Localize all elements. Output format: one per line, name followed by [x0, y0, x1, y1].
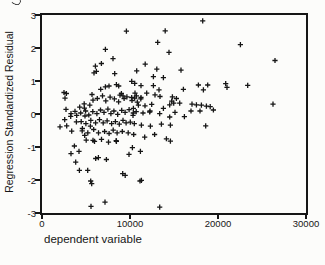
- plus-marker: [89, 92, 94, 97]
- plus-marker: [93, 156, 98, 161]
- plus-marker: [130, 145, 135, 150]
- plus-marker: [156, 87, 161, 92]
- y-tick-mark: [35, 14, 40, 16]
- plus-marker: [62, 117, 67, 122]
- y-tick-mark: [35, 179, 40, 181]
- plus-marker: [85, 168, 90, 173]
- y-tick-label: 3: [10, 10, 36, 21]
- plus-marker: [115, 112, 120, 117]
- plus-marker: [107, 131, 112, 136]
- plus-marker: [114, 138, 119, 143]
- plus-marker: [163, 28, 168, 33]
- plot-area: [40, 13, 308, 215]
- plus-marker: [103, 47, 108, 52]
- x-axis-title: dependent variable: [44, 233, 142, 245]
- plus-marker: [85, 130, 90, 135]
- plus-marker: [91, 127, 96, 132]
- plus-marker: [74, 119, 79, 124]
- x-tick-label: 30000: [293, 218, 319, 229]
- plus-marker: [103, 84, 108, 89]
- plus-marker: [159, 122, 164, 127]
- plus-marker: [105, 107, 110, 112]
- scatterplot-figure: Regression Standardized Residual 3210-1-…: [0, 0, 325, 265]
- x-tick-label: 0: [39, 218, 44, 229]
- plus-marker: [204, 104, 209, 109]
- plus-marker: [135, 100, 140, 105]
- plus-marker: [68, 151, 73, 156]
- plus-marker: [77, 105, 82, 110]
- plus-marker: [115, 130, 120, 135]
- plus-marker: [168, 123, 173, 128]
- plus-marker: [77, 168, 82, 173]
- y-tick-label: -2: [10, 175, 36, 186]
- plus-marker: [144, 91, 149, 96]
- plus-marker: [76, 149, 81, 154]
- plus-marker: [82, 101, 87, 106]
- plus-marker: [188, 108, 193, 113]
- y-tick-mark: [35, 80, 40, 82]
- plus-marker: [124, 29, 129, 34]
- plus-marker: [182, 114, 187, 119]
- plus-marker: [99, 61, 104, 66]
- plus-marker: [93, 120, 98, 125]
- plus-marker: [205, 82, 210, 87]
- plus-marker: [149, 102, 154, 107]
- plus-marker: [166, 50, 171, 55]
- plus-marker: [172, 110, 177, 115]
- plus-marker: [152, 92, 157, 97]
- plus-marker: [151, 83, 156, 88]
- plus-marker: [270, 102, 275, 107]
- plus-marker: [82, 133, 87, 138]
- y-tick-label: -1: [10, 142, 36, 153]
- y-tick-mark: [35, 113, 40, 115]
- x-tick-label: 20000: [205, 218, 231, 229]
- plus-marker: [72, 143, 77, 148]
- plus-marker: [161, 106, 166, 111]
- plus-marker: [151, 74, 156, 79]
- plus-marker: [97, 117, 102, 122]
- plus-marker: [88, 204, 93, 209]
- y-tick-label: 0: [10, 109, 36, 120]
- plus-marker: [197, 108, 202, 113]
- plus-marker: [88, 124, 93, 129]
- plus-marker: [167, 114, 172, 119]
- plus-marker: [102, 129, 107, 134]
- plus-marker: [87, 103, 92, 108]
- plus-marker: [138, 149, 143, 154]
- plus-marker: [157, 205, 162, 210]
- plus-marker: [83, 121, 88, 126]
- plus-marker: [120, 129, 125, 134]
- plus-marker: [73, 160, 78, 165]
- plus-marker: [139, 123, 144, 128]
- plus-marker: [86, 112, 91, 117]
- plus-marker: [103, 98, 108, 103]
- plus-marker: [155, 40, 160, 45]
- plus-marker: [104, 157, 109, 162]
- plus-marker: [69, 129, 74, 134]
- plus-marker: [126, 130, 131, 135]
- plus-marker: [161, 75, 166, 80]
- plus-marker: [238, 42, 243, 47]
- plus-marker: [157, 111, 162, 116]
- plus-marker: [134, 68, 139, 73]
- plus-marker: [68, 114, 73, 119]
- y-tick-label: -3: [10, 208, 36, 219]
- plus-marker: [112, 71, 117, 76]
- x-tick-label: 10000: [117, 218, 143, 229]
- plus-marker: [64, 123, 69, 128]
- plus-marker: [93, 64, 98, 69]
- plus-marker: [62, 96, 67, 101]
- plus-marker: [111, 128, 116, 133]
- plus-marker: [63, 107, 68, 112]
- plus-marker: [136, 103, 141, 108]
- y-tick-mark: [35, 146, 40, 148]
- plus-marker: [245, 83, 250, 88]
- plus-marker: [201, 87, 206, 92]
- plus-marker: [96, 130, 101, 135]
- plus-marker: [96, 155, 101, 160]
- plus-marker: [116, 99, 121, 104]
- plus-marker: [110, 56, 115, 61]
- plus-marker: [126, 152, 131, 157]
- plus-marker: [131, 132, 136, 137]
- cropped-glyph-fragment: [10, 0, 22, 6]
